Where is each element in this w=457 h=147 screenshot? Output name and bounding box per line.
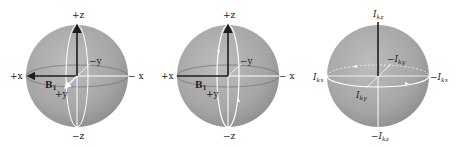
label-right: − x xyxy=(279,71,294,81)
sphere-2: +z −z +x − x −y +y B1 xyxy=(161,10,294,141)
label-back: −y xyxy=(89,56,103,66)
label-left: +x xyxy=(161,71,174,81)
label-right: − x xyxy=(128,71,143,81)
label-left: Ikx xyxy=(312,72,324,83)
label-bottom: −z xyxy=(223,131,236,141)
label-top: +z xyxy=(223,10,236,20)
label-top: +z xyxy=(72,10,85,20)
label-bottom: −z xyxy=(72,131,85,141)
sphere-3: Ikz −Ikz Ikx −Ikx −Iky Iky xyxy=(312,9,449,142)
label-top: Ikz xyxy=(372,9,384,20)
label-back: −y xyxy=(240,56,254,66)
label-left: +x xyxy=(10,71,23,81)
label-front: +y xyxy=(55,89,69,99)
sphere-1: +z −z +x − x −y +y B1 xyxy=(10,10,143,141)
label-bottom: −Ikz xyxy=(371,131,390,142)
bloch-sphere-figure: +z −z +x − x −y +y B1 +z −z +x − x −y +y… xyxy=(0,0,457,147)
label-front: +y xyxy=(206,89,220,99)
label-right: −Ikx xyxy=(430,72,449,83)
